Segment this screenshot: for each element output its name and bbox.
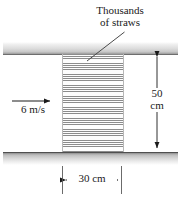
duct-straw-figure: Thousands of straws 6 m/s 50 cm 30 cm [0, 0, 182, 203]
straws-callout-label: Thousands of straws [74, 5, 166, 29]
straw-bundle [62, 54, 124, 152]
width-dimension-label: 30 cm [67, 173, 117, 185]
straws-callout-line-2: of straws [74, 17, 166, 29]
inlet-velocity-label: 6 m/s [8, 104, 58, 116]
height-dimension-label: 50 cm [142, 88, 172, 112]
height-dimension-unit: cm [142, 100, 172, 112]
duct-bottom-wall [3, 152, 178, 165]
